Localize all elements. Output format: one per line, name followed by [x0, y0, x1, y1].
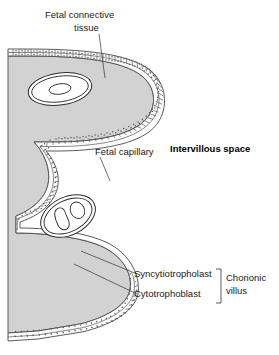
label-fetal-capillary: Fetal capillary [95, 146, 154, 157]
label-fetal-connective-tissue-line2: tissue [74, 22, 99, 33]
chorionic-villus-bracket [216, 269, 221, 303]
leader-fetal-capillary [100, 157, 110, 181]
label-intervillous-space: Intervillous space [170, 143, 250, 154]
label-fetal-connective-tissue-line1: Fetal connective [45, 9, 114, 20]
label-chorionic-villus-line1: Chorionic [226, 272, 266, 283]
label-cytotrophoblast: Cytotrophoblast [134, 288, 201, 299]
label-chorionic-villus-line2: villus [226, 285, 247, 296]
chorionic-villus-diagram: Fetal connective tissue Fetal capillary … [0, 0, 279, 355]
label-syncytiotrophoblast: Syncytiotropholast [134, 268, 212, 279]
